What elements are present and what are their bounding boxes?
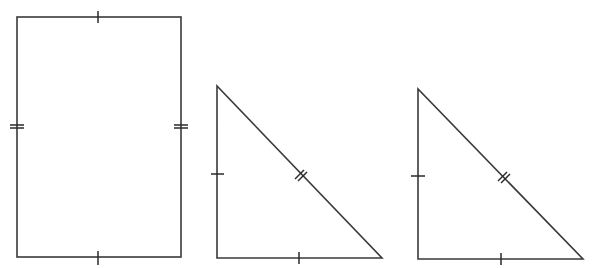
triangle-1-outline <box>217 86 382 258</box>
triangle-1-hypotenuse-double-tick-icon <box>295 170 307 181</box>
triangle-2 <box>411 89 583 265</box>
rectangle <box>10 11 188 265</box>
geometry-diagram <box>0 0 592 268</box>
rectangle-outline <box>17 17 181 257</box>
triangle-2-outline <box>418 89 583 259</box>
triangle-1 <box>211 86 382 264</box>
